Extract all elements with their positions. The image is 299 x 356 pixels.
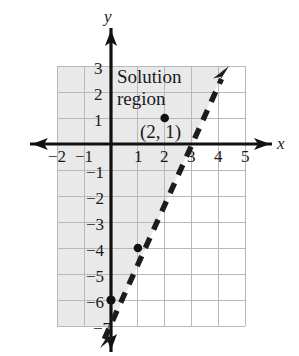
x-tick-4: 4 bbox=[214, 148, 223, 165]
x-tick-5: 5 bbox=[241, 148, 250, 165]
test-point-label: (2, 1) bbox=[140, 122, 181, 141]
y-tick-1: 1 bbox=[94, 112, 103, 129]
y-tick-minus-4: −4 bbox=[86, 242, 104, 259]
solution-region-label-line2: region bbox=[117, 89, 166, 108]
y-tick-minus-2: −2 bbox=[86, 190, 104, 207]
y-tick-minus-1: −1 bbox=[86, 164, 104, 181]
y-tick-2: 2 bbox=[94, 86, 103, 103]
y-axis-label: y bbox=[104, 8, 112, 25]
y-intercept-dot bbox=[106, 295, 115, 304]
y-tick-minus-3: −3 bbox=[86, 216, 104, 233]
x-tick-1: 1 bbox=[134, 148, 143, 165]
coordinate-plane-figure bbox=[0, 0, 299, 356]
y-tick-minus-7: −7 bbox=[93, 320, 111, 337]
line-point-dot bbox=[134, 244, 143, 253]
x-tick-3: 3 bbox=[187, 148, 196, 165]
y-tick-minus-5: −5 bbox=[86, 268, 104, 285]
y-tick-3: 3 bbox=[94, 60, 103, 77]
x-tick-minus-1: −1 bbox=[75, 148, 93, 165]
y-tick-minus-6: −6 bbox=[86, 294, 104, 311]
x-axis-label: x bbox=[277, 135, 285, 152]
x-tick-2: 2 bbox=[160, 148, 169, 165]
solution-region-label-line1: Solution bbox=[117, 67, 181, 86]
x-tick-minus-2: −2 bbox=[48, 148, 66, 165]
